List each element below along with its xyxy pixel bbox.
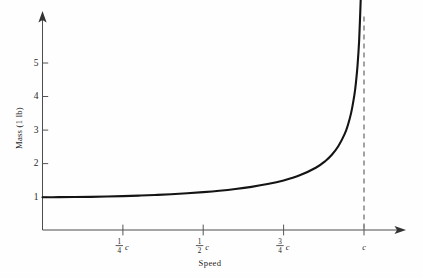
x-axis-title: Speed [199, 258, 222, 268]
y-axis-title: Mass (1 lb) [14, 107, 24, 149]
y-tick-label-1: 1 [34, 192, 39, 202]
x-tick-half-c-denominator: 2 [198, 247, 202, 255]
x-tick-quarter-c-numerator: 1 [118, 238, 122, 246]
x-tick-quarter-c-symbol: c [125, 243, 129, 252]
x-tick-three-quarter-c-symbol: c [286, 243, 290, 252]
x-tick-half-c-symbol: c [205, 243, 209, 252]
x-tick-label-c: c [362, 243, 366, 252]
chart-figure: 1 2 3 4 5 Mass (1 lb) 1 4 c 1 2 c [0, 0, 423, 278]
y-tick-label-3: 3 [34, 125, 39, 135]
mass-vs-speed-chart: 1 2 3 4 5 Mass (1 lb) 1 4 c 1 2 c [0, 0, 423, 278]
y-tick-label-2: 2 [34, 158, 39, 168]
x-tick-three-quarter-c-denominator: 4 [278, 247, 282, 255]
x-tick-three-quarter-c-numerator: 3 [278, 238, 282, 246]
x-tick-half-c-numerator: 1 [198, 238, 202, 246]
y-tick-label-5: 5 [34, 58, 39, 68]
y-tick-label-4: 4 [34, 91, 39, 101]
x-tick-quarter-c-denominator: 4 [118, 247, 122, 255]
